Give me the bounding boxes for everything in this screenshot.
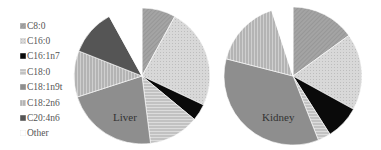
liver-pie-chart (0, 0, 381, 150)
liver-pie-label: Liver (113, 111, 137, 123)
kidney-pie-label: Kidney (262, 111, 294, 123)
